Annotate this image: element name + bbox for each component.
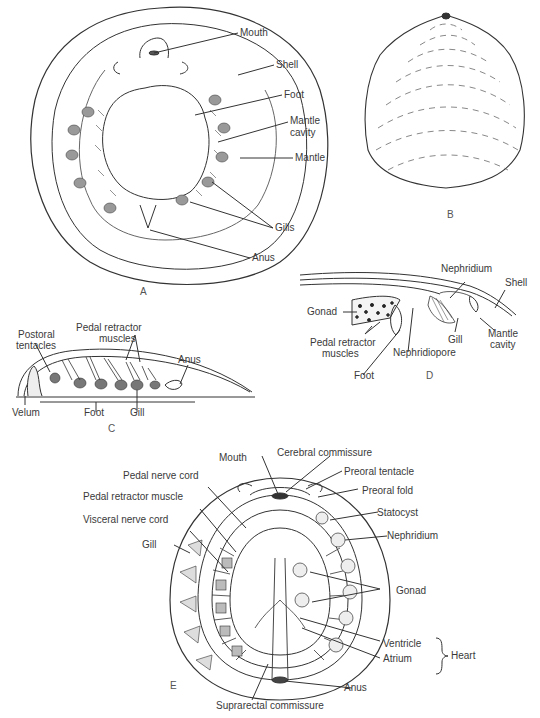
label-c-postoral-tentacles-2: tentacles <box>16 340 56 351</box>
label-e-statocyst: Statocyst <box>377 507 418 518</box>
label-e-heart: Heart <box>451 650 475 661</box>
label-e-pedal-retractor-muscle: Pedal retractor muscle <box>83 491 183 502</box>
label-d-mantle-cavity-2: cavity <box>490 339 516 350</box>
label-c-anus: Anus <box>178 354 201 365</box>
label-e-ventricle: Ventricle <box>383 638 421 649</box>
label-e-anus: Anus <box>344 682 367 693</box>
label-d-nephridium: Nephridium <box>441 263 492 274</box>
label-a-mouth: Mouth <box>240 27 268 38</box>
label-c-pedal-retractor-1: Pedal retractor <box>76 322 142 333</box>
label-c-velum: Velum <box>12 407 40 418</box>
label-e-atrium: Atrium <box>383 653 412 664</box>
label-a-mantle-cavity-1: Mantle <box>290 115 320 126</box>
label-e-suprarectal-commissure: Suprarectal commissure <box>216 700 324 711</box>
label-e-mouth: Mouth <box>219 452 247 463</box>
label-c-postoral-tentacles-1: Postoral <box>18 329 55 340</box>
label-c-foot: Foot <box>84 407 104 418</box>
label-a-mantle-cavity-2: cavity <box>290 127 316 138</box>
label-d-gill: Gill <box>448 334 462 345</box>
label-a-anus: Anus <box>252 252 275 263</box>
label-d-pedal-retractor-1: Pedal retractor <box>310 337 376 348</box>
label-a-shell: Shell <box>276 59 298 70</box>
panel-letter-d: D <box>426 370 433 381</box>
panel-letter-b: B <box>447 209 454 220</box>
label-d-nephridiopore: Nephridiopore <box>393 347 456 358</box>
panel-b-drawing <box>365 13 524 188</box>
label-e-nephridium: Nephridium <box>387 530 438 541</box>
label-e-gill: Gill <box>142 539 156 550</box>
label-e-pedal-nerve-cord: Pedal nerve cord <box>123 470 199 481</box>
label-a-foot: Foot <box>284 89 304 100</box>
label-a-mantle: Mantle <box>295 152 325 163</box>
label-e-preoral-fold: Preoral fold <box>362 485 413 496</box>
label-e-gonad: Gonad <box>396 585 426 596</box>
label-d-mantle-cavity-1: Mantle <box>488 328 518 339</box>
panel-letter-a: A <box>140 286 147 297</box>
label-d-foot: Foot <box>354 370 374 381</box>
anatomy-drawings <box>0 0 540 718</box>
label-e-preoral-tentacle: Preoral tentacle <box>344 466 414 477</box>
panel-letter-c: C <box>108 423 115 434</box>
panel-d-drawing <box>300 273 516 375</box>
label-d-gonad: Gonad <box>307 306 337 317</box>
label-d-pedal-retractor-2: muscles <box>322 348 359 359</box>
label-e-visceral-nerve-cord: Visceral nerve cord <box>83 514 168 525</box>
label-c-pedal-retractor-2: muscles <box>99 333 136 344</box>
label-d-shell: Shell <box>505 277 527 288</box>
panel-letter-e: E <box>170 680 177 691</box>
label-e-cerebral-commissure: Cerebral commissure <box>277 447 372 458</box>
label-c-gill: Gill <box>130 407 144 418</box>
label-a-gills: Gills <box>275 222 294 233</box>
panel-a-drawing <box>31 7 328 284</box>
